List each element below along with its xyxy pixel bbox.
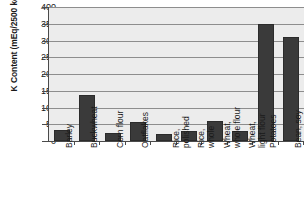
bar[interactable] bbox=[156, 134, 172, 141]
x-axis-tick-label-line: Bean, soy bbox=[294, 88, 304, 148]
x-axis-tick-label: Wheat,light flour bbox=[248, 88, 267, 148]
x-axis-tick-label-line: light flour bbox=[258, 88, 268, 148]
x-axis-tick-label: Oatflakes bbox=[141, 88, 151, 148]
x-axis-tick-label: Potatoes bbox=[269, 88, 279, 148]
bar-chart: K Content (mEq/2500 kcal) 05010015020025… bbox=[0, 0, 307, 205]
x-axis-tick-label-line: Potatoes bbox=[269, 88, 279, 148]
x-axis-tick-label: Rice,whole bbox=[197, 88, 216, 148]
x-axis-tick-label-line: whole flour bbox=[232, 88, 242, 148]
x-axis-tick-label-line: whole bbox=[207, 88, 217, 148]
x-axis-tick-label-line: Rice, bbox=[172, 88, 182, 148]
x-axis-tick-label-line: Oatflakes bbox=[141, 88, 151, 148]
x-axis-tick-label: Buckwheat bbox=[90, 88, 100, 148]
x-axis-tick-label-line: Barley bbox=[65, 88, 75, 148]
x-axis-tick-label-line: polished bbox=[181, 88, 191, 148]
x-axis-tick-label: Corn flour bbox=[116, 88, 126, 148]
x-axis-tick-label: Rice,polished bbox=[172, 88, 191, 148]
x-axis-tick-label-line: Buckwheat bbox=[90, 88, 100, 148]
x-axis-tick-label: Bean, soy bbox=[294, 88, 304, 148]
x-axis-tick-label-line: Wheat, bbox=[223, 88, 233, 148]
y-axis-title: K Content (mEq/2500 kcal) bbox=[9, 0, 19, 109]
x-axis-tick-label: Barley bbox=[65, 88, 75, 148]
x-axis-tick-label: Wheat,whole flour bbox=[223, 88, 242, 148]
x-axis-tick-label-line: Corn flour bbox=[116, 88, 126, 148]
